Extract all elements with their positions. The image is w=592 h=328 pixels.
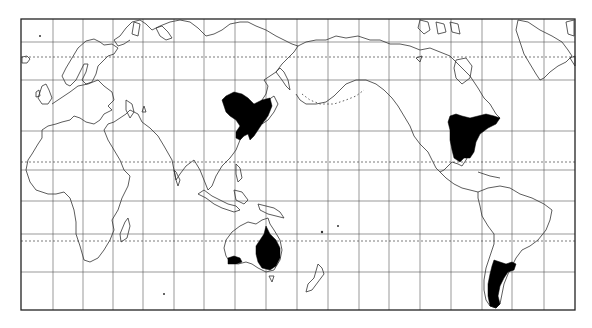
central-america <box>440 172 478 192</box>
range-sw-australia <box>228 256 242 264</box>
madagascar <box>120 218 130 242</box>
tasmania <box>269 276 274 282</box>
range-eastern-north-america <box>448 114 500 162</box>
british-isles <box>38 84 52 104</box>
scandinavia <box>62 39 118 86</box>
world-distribution-map <box>0 0 592 328</box>
new-zealand <box>306 264 324 292</box>
coastlines <box>22 20 575 308</box>
range-east-asia <box>222 92 272 140</box>
europe-africa <box>26 80 130 262</box>
range-australia <box>256 226 280 270</box>
new-guinea <box>258 204 284 218</box>
